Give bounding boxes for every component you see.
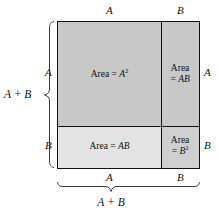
algebra-square-diagram: A B A B A + B A B Area = A2 Area = AB Ar…: [0, 0, 220, 214]
left-curly-brace: [45, 22, 54, 168]
bottom-curly-brace: [58, 183, 200, 192]
brace-overlay: [0, 0, 220, 214]
